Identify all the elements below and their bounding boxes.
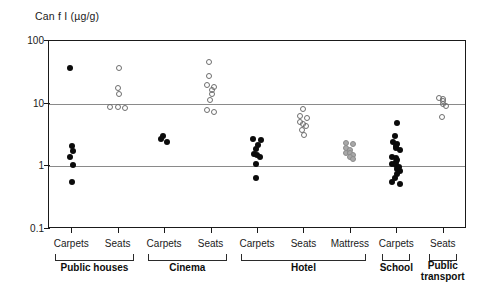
data-point bbox=[209, 91, 215, 97]
data-point bbox=[300, 106, 306, 112]
data-point bbox=[69, 179, 75, 185]
x-axis-label-carpets: Carpets bbox=[147, 238, 182, 249]
y-tick-label: 1 bbox=[12, 160, 44, 171]
data-point bbox=[397, 147, 403, 153]
group-label-school: School bbox=[380, 262, 413, 273]
group-bracket bbox=[148, 254, 226, 261]
data-point bbox=[115, 104, 121, 110]
x-axis-label-carpets: Carpets bbox=[239, 238, 274, 249]
x-tick-mark bbox=[257, 228, 258, 233]
data-point bbox=[204, 107, 210, 113]
x-axis-label-seats: Seats bbox=[105, 238, 131, 249]
data-point bbox=[67, 65, 73, 71]
y-tick-mark bbox=[44, 40, 50, 41]
data-point bbox=[107, 104, 113, 110]
data-point bbox=[257, 154, 263, 160]
group-bracket bbox=[55, 254, 133, 261]
data-point bbox=[116, 91, 122, 97]
x-axis-label-seats: Seats bbox=[291, 238, 317, 249]
data-point bbox=[206, 73, 212, 79]
group-label-hotel: Hotel bbox=[291, 262, 316, 273]
chart-figure: Can f I (µg/g) 1001010.1 CarpetsSeatsCar… bbox=[0, 0, 482, 287]
data-point bbox=[397, 181, 403, 187]
group-label-public-transport: Publictransport bbox=[421, 260, 465, 282]
data-point bbox=[67, 154, 73, 160]
data-point bbox=[350, 141, 356, 147]
group-label-public-houses: Public houses bbox=[61, 262, 129, 273]
data-point bbox=[250, 136, 256, 142]
x-tick-mark bbox=[396, 228, 397, 233]
data-point bbox=[158, 136, 164, 142]
x-tick-mark bbox=[443, 228, 444, 233]
group-label-cinema: Cinema bbox=[169, 262, 205, 273]
group-bracket bbox=[241, 254, 366, 261]
y-tick-mark bbox=[44, 228, 50, 229]
data-point bbox=[164, 139, 170, 145]
y-tick-mark bbox=[44, 103, 50, 104]
data-point bbox=[439, 114, 445, 120]
data-point bbox=[116, 65, 122, 71]
x-tick-mark bbox=[350, 228, 351, 233]
data-point bbox=[394, 120, 400, 126]
x-tick-mark bbox=[71, 228, 72, 233]
x-axis-label-carpets: Carpets bbox=[379, 238, 414, 249]
data-point bbox=[253, 161, 259, 167]
x-axis-label-mattress: Mattress bbox=[331, 238, 369, 249]
y-tick-label: 100 bbox=[12, 35, 44, 46]
data-point bbox=[443, 103, 449, 109]
x-axis-label-seats: Seats bbox=[198, 238, 224, 249]
x-tick-mark bbox=[303, 228, 304, 233]
x-tick-mark bbox=[118, 228, 119, 233]
y-tick-label: 10 bbox=[12, 97, 44, 108]
plot-area bbox=[48, 40, 466, 228]
data-point bbox=[253, 175, 259, 181]
data-point bbox=[70, 148, 76, 154]
x-tick-mark bbox=[211, 228, 212, 233]
data-point bbox=[389, 179, 395, 185]
x-tick-mark bbox=[164, 228, 165, 233]
data-point bbox=[70, 162, 76, 168]
data-point bbox=[122, 105, 128, 111]
data-point bbox=[301, 132, 307, 138]
y-axis-tick-labels: 1001010.1 bbox=[8, 40, 44, 228]
group-bracket bbox=[382, 254, 410, 261]
data-point bbox=[207, 97, 213, 103]
data-point bbox=[211, 109, 217, 115]
data-point bbox=[350, 156, 356, 162]
y-tick-label: 0.1 bbox=[12, 223, 44, 234]
x-axis-label-seats: Seats bbox=[430, 238, 456, 249]
data-point bbox=[206, 59, 212, 65]
y-tick-mark bbox=[44, 165, 50, 166]
x-axis-label-carpets: Carpets bbox=[54, 238, 89, 249]
y-axis-title: Can f I (µg/g) bbox=[35, 10, 99, 22]
